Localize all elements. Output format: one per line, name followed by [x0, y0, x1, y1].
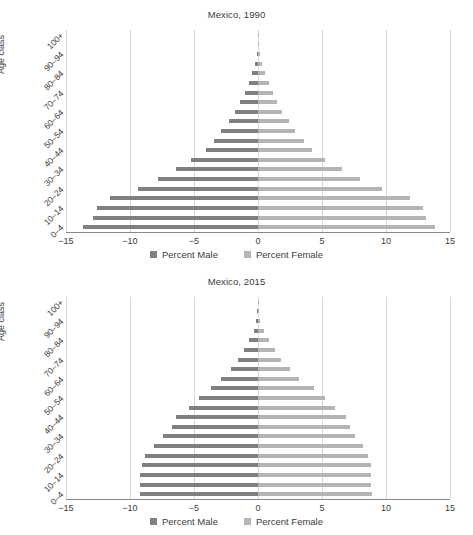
- bar-male: [211, 386, 258, 390]
- pyramid-row: [66, 155, 450, 165]
- pyramid-row: [66, 78, 450, 88]
- bar-female: [258, 91, 273, 95]
- plot-area-2015: [66, 297, 450, 499]
- bar-female: [258, 454, 368, 458]
- bar-male: [97, 206, 258, 210]
- legend-swatch-male-icon: [150, 518, 157, 525]
- pyramid-row: [66, 136, 450, 146]
- bar-female: [258, 129, 295, 133]
- population-pyramid-figure: Mexico, 1990 Age class −15−10−5051015 0–…: [0, 0, 473, 535]
- pyramid-row: [66, 117, 450, 127]
- y-axis-label-1990: Age class: [0, 35, 6, 74]
- pyramid-row: [66, 461, 450, 471]
- bar-male: [158, 177, 258, 181]
- bar-male: [238, 358, 258, 362]
- pyramid-row: [66, 49, 450, 59]
- legend-item-female-2015[interactable]: Percent Female: [244, 516, 323, 527]
- chart-title-2015: Mexico, 2015: [0, 276, 473, 287]
- legend-item-female-1990[interactable]: Percent Female: [244, 249, 323, 260]
- x-tick-label: −15: [58, 503, 73, 513]
- bar-male: [172, 425, 258, 429]
- bar-female: [258, 139, 304, 143]
- bar-female: [258, 225, 435, 229]
- legend-1990: Percent Male Percent Female: [0, 249, 473, 260]
- pyramid-row: [66, 489, 450, 499]
- pyramid-row: [66, 326, 450, 336]
- y-axis-label-2015: Age class: [0, 302, 6, 341]
- bar-female: [258, 444, 363, 448]
- bar-female: [258, 396, 325, 400]
- pyramid-row: [66, 222, 450, 232]
- pyramid-row: [66, 441, 450, 451]
- pyramid-row: [66, 432, 450, 442]
- bar-male: [176, 415, 258, 419]
- pyramid-row: [66, 335, 450, 345]
- bar-male: [138, 187, 258, 191]
- x-tick-label: −15: [58, 236, 73, 246]
- bar-male: [191, 158, 258, 162]
- pyramid-row: [66, 364, 450, 374]
- bar-female: [258, 110, 282, 114]
- bar-female: [258, 81, 269, 85]
- pyramid-row: [66, 451, 450, 461]
- bar-male: [221, 377, 258, 381]
- bar-male: [176, 167, 258, 171]
- bar-male: [244, 348, 258, 352]
- bar-male: [245, 91, 258, 95]
- bar-female: [258, 492, 372, 496]
- bar-male: [140, 473, 258, 477]
- bar-female: [258, 309, 259, 313]
- pyramid-row: [66, 30, 450, 40]
- bar-female: [258, 119, 289, 123]
- bar-female: [258, 52, 260, 56]
- legend-swatch-male-icon: [150, 251, 157, 258]
- bar-female: [258, 167, 342, 171]
- pyramid-row: [66, 355, 450, 365]
- pyramid-row: [66, 68, 450, 78]
- bar-female: [258, 196, 410, 200]
- legend-label-female: Percent Female: [256, 516, 323, 527]
- bar-male: [221, 129, 258, 133]
- bar-female: [258, 216, 426, 220]
- bar-female: [258, 177, 360, 181]
- bar-female: [258, 187, 382, 191]
- x-tick-label: −5: [189, 236, 199, 246]
- x-tick-label: 5: [319, 503, 324, 513]
- pyramid-row: [66, 297, 450, 307]
- bar-female: [258, 42, 259, 46]
- bar-female: [258, 406, 335, 410]
- pyramid-row: [66, 384, 450, 394]
- pyramid-row: [66, 174, 450, 184]
- x-axis-line-2015: [66, 499, 450, 500]
- bar-female: [258, 473, 371, 477]
- legend-item-male-2015[interactable]: Percent Male: [150, 516, 218, 527]
- grid-line: [450, 30, 451, 232]
- x-tick-label: 0: [255, 236, 260, 246]
- bar-male: [199, 396, 258, 400]
- bar-female: [258, 62, 262, 66]
- pyramid-row: [66, 107, 450, 117]
- bar-female: [258, 158, 325, 162]
- plot-area-1990: [66, 30, 450, 232]
- pyramid-row: [66, 374, 450, 384]
- pyramid-row: [66, 126, 450, 136]
- x-tick-label: 0: [255, 503, 260, 513]
- pyramid-row: [66, 145, 450, 155]
- bar-male: [214, 139, 258, 143]
- pyramid-row: [66, 194, 450, 204]
- bar-male: [83, 225, 258, 229]
- legend-item-male-1990[interactable]: Percent Male: [150, 249, 218, 260]
- x-tick-label: 5: [319, 236, 324, 246]
- bar-female: [258, 425, 350, 429]
- legend-2015: Percent Male Percent Female: [0, 516, 473, 527]
- bar-female: [258, 415, 346, 419]
- pyramid-row: [66, 316, 450, 326]
- pyramid-row: [66, 184, 450, 194]
- pyramid-row: [66, 393, 450, 403]
- grid-line: [450, 297, 451, 499]
- bar-female: [258, 329, 264, 333]
- bar-male: [140, 483, 258, 487]
- bar-male: [140, 492, 258, 496]
- x-tick-label: 15: [445, 503, 455, 513]
- x-tick-label: −5: [189, 503, 199, 513]
